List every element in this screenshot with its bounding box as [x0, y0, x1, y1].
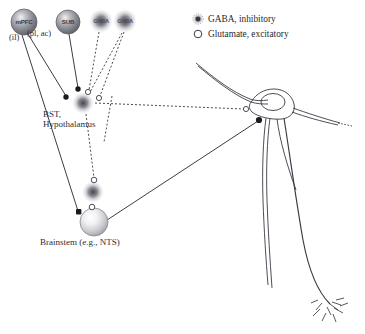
node-brainstem [80, 208, 108, 236]
gaba-terminal [256, 117, 262, 123]
neuron-dendrite-right-b [292, 112, 338, 125]
line-gaba-a-to-bst [89, 32, 99, 90]
gaba-nodes [72, 9, 137, 203]
glutamate-terminal [243, 106, 248, 111]
glutamate-terminals [85, 89, 248, 209]
legend-item-gaba: GABA, inhibitory [191, 11, 361, 26]
line-mpfc-to-bst [28, 34, 66, 96]
node-mid-gaba [82, 181, 104, 203]
line-gaba-b-to-bst [100, 32, 124, 96]
node-bst [72, 92, 94, 114]
node-label-mpfc: mPFC [15, 18, 33, 25]
circuit-diagram: mPFC SUB GABA GABA [0, 0, 365, 334]
node-label-gaba-a: GABA [93, 18, 109, 24]
line-sub-to-bst [69, 34, 78, 88]
line-gaba-b-cross [90, 33, 122, 92]
neuron-nucleus [261, 94, 285, 111]
gaba-marker-icon [191, 12, 205, 26]
gaba-terminal [75, 86, 80, 91]
neuron-dendrite-upper-left-b [198, 66, 268, 104]
gaba-terminal [63, 94, 68, 99]
line-bst-to-neuron [95, 103, 244, 109]
legend-label-glutamate: Glutamate, excitatory [208, 29, 289, 39]
label-pl-ac: (pl, ac) [27, 29, 51, 39]
neuron [196, 63, 352, 322]
label-brainstem: Brainstem (e.g., NTS) [40, 237, 120, 247]
legend: GABA, inhibitory Glutamate, excitatory [191, 11, 361, 41]
line-vertical-crossing [104, 96, 112, 142]
glutamate-terminal [91, 177, 97, 183]
label-hypothalamus: Hypothalamus [43, 119, 96, 129]
node-label-gaba-b: GABA [117, 18, 133, 24]
node-label-sub: SUB [62, 18, 75, 25]
neuron-dendrite-down-1b [267, 118, 272, 288]
glutamate-terminal [89, 204, 95, 210]
dotted-connections [86, 32, 244, 212]
label-bst: BST, [43, 109, 61, 119]
axon-terminal-arbor [311, 298, 348, 322]
neuron-dendrite-right-tip [338, 123, 352, 126]
figure-canvas: mPFC SUB GABA GABA (il) (pl, ac) BST, Hy… [0, 0, 365, 334]
legend-label-gaba: GABA, inhibitory [208, 14, 276, 24]
legend-item-glutamate: Glutamate, excitatory [191, 26, 361, 41]
glutamate-terminal [85, 89, 90, 94]
glutamate-terminal [96, 95, 101, 100]
label-il: (il) [9, 33, 19, 43]
neuron-axon [284, 118, 330, 304]
glutamate-marker-icon [191, 27, 205, 41]
neuron-dendrite-right [293, 108, 340, 123]
line-brainstem-to-neuron [104, 121, 258, 222]
gaba-terminal [76, 209, 81, 214]
